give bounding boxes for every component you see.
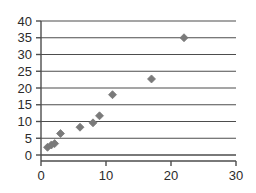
x-tick-labels: 0102030 (37, 168, 243, 183)
data-point-marker (180, 34, 188, 42)
data-point-marker (96, 112, 104, 120)
x-tick-label: 10 (99, 168, 113, 183)
y-tick-label: 0 (25, 148, 32, 163)
y-tick-label: 35 (18, 30, 32, 45)
x-tick-label: 30 (229, 168, 243, 183)
data-point-marker (57, 130, 65, 138)
data-point-marker (148, 75, 156, 83)
y-axis (36, 21, 41, 161)
data-point-marker (76, 123, 84, 131)
x-axis (41, 161, 236, 166)
y-tick-labels: 0510152025303540 (18, 14, 32, 163)
y-tick-label: 30 (18, 47, 32, 62)
y-tick-label: 5 (25, 131, 32, 146)
scatter-chart: 0510152025303540 0102030 (0, 0, 256, 193)
y-tick-label: 15 (18, 97, 32, 112)
x-tick-label: 0 (37, 168, 44, 183)
plot-svg: 0510152025303540 0102030 (0, 0, 256, 193)
data-point-marker (109, 91, 117, 99)
x-tick-label: 20 (164, 168, 178, 183)
data-point-marker (89, 119, 97, 127)
gridlines (41, 21, 236, 155)
data-points (44, 34, 189, 152)
y-tick-label: 20 (18, 81, 32, 96)
y-tick-label: 10 (18, 114, 32, 129)
y-tick-label: 25 (18, 64, 32, 79)
y-tick-label: 40 (18, 14, 32, 29)
